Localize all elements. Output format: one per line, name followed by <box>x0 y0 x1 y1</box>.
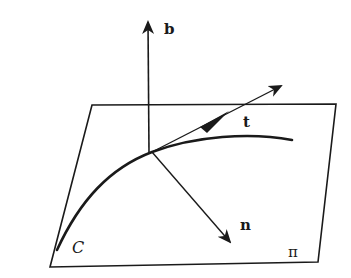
curve-label: C <box>72 240 84 256</box>
plane-label: π <box>288 245 298 260</box>
diagram-svg <box>0 0 351 278</box>
frenet-frame-diagram: b t n C π <box>0 0 351 278</box>
curve-c <box>57 136 292 250</box>
normal-label: n <box>240 218 251 233</box>
tangent-label: t <box>243 115 250 130</box>
tangent-arrowhead-inner <box>200 111 229 133</box>
normal-vector <box>152 152 230 242</box>
binormal-label: b <box>164 22 175 37</box>
binormal-vector <box>148 22 149 153</box>
